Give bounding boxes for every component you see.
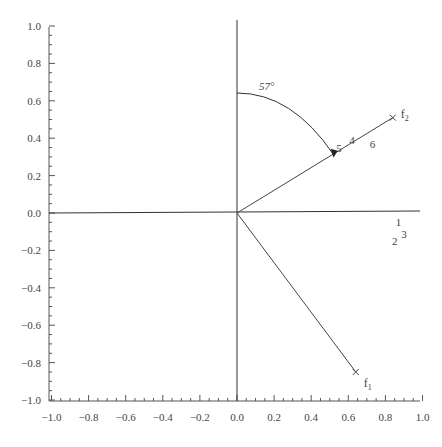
x-tick-label: 0.0 [230, 411, 244, 423]
x-tick-label: 0.4 [304, 411, 318, 423]
y-tick-label: 0.0 [27, 207, 41, 219]
vector-label-subscript: 2 [405, 114, 409, 123]
y-tick-label: 0.2 [27, 170, 41, 182]
y-tick-label: 0.6 [27, 95, 41, 107]
vector-label-f2: f2 [401, 107, 409, 123]
point-label: 2 [392, 235, 398, 247]
axes [49, 27, 420, 401]
y-tick-label: −1.0 [21, 394, 41, 406]
y-tick-label: 1.0 [27, 20, 41, 32]
x-tick-label: −1.0 [42, 411, 62, 423]
annotations: 57° [237, 80, 338, 158]
biplot-chart: 1.00.80.60.40.20.0−0.2−0.4−0.6−0.8−1.0−1… [0, 0, 442, 447]
y-tick-label: −0.2 [21, 244, 41, 256]
x-tick-label: −0.2 [190, 411, 210, 423]
x-tick-label: 0.6 [341, 411, 355, 423]
vector-f1 [237, 213, 356, 372]
x-tick-label: 0.2 [267, 411, 281, 423]
y-tick-label: 0.8 [27, 57, 41, 69]
point-label: 1 [396, 216, 402, 228]
y-tick-label: −0.6 [21, 319, 41, 331]
y-tick-label: 0.4 [27, 132, 41, 144]
vector-label-f1: f1 [364, 376, 372, 392]
point-label: 4 [349, 134, 355, 146]
horizontal-reference-line [49, 211, 420, 213]
vectors [237, 115, 396, 375]
x-tick-label: −0.6 [116, 411, 136, 423]
x-tick-label: 0.8 [379, 411, 393, 423]
point-label: 5 [336, 142, 342, 154]
x-tick-label: −0.4 [153, 411, 173, 423]
reference-lines [49, 20, 420, 401]
angle-label: 57° [259, 80, 275, 92]
point-label: 3 [401, 228, 407, 240]
point-label: 6 [370, 138, 376, 150]
tick-labels: 1.00.80.60.40.20.0−0.2−0.4−0.6−0.8−1.0−1… [21, 20, 430, 423]
ticks [49, 26, 423, 401]
vector-label-subscript: 1 [368, 383, 372, 392]
x-tick-label: 1.0 [416, 411, 430, 423]
points: f1f2123456 [336, 107, 409, 392]
vector-f2 [237, 118, 393, 213]
y-tick-label: −0.4 [21, 282, 41, 294]
y-tick-label: −0.8 [21, 357, 41, 369]
x-tick-label: −0.8 [79, 411, 99, 423]
angle-arc [237, 93, 334, 155]
